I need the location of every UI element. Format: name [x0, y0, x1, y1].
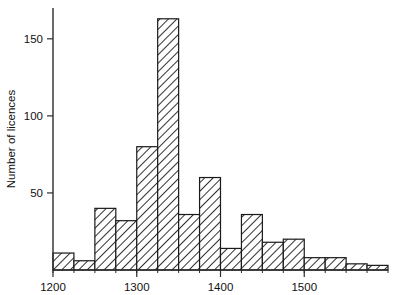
x-axis-tick-label: 1400 — [208, 281, 234, 293]
x-axis-tick-label: 1500 — [291, 281, 317, 293]
chart-svg: 501001501200130014001500Number of licenc… — [0, 0, 396, 295]
histogram-bar — [283, 239, 304, 270]
histogram-bar — [116, 221, 137, 270]
y-axis-title: Number of licences — [5, 90, 17, 189]
histogram-bar — [221, 248, 242, 270]
histogram-bar — [241, 215, 262, 270]
histogram-bar — [304, 258, 325, 270]
histogram-bar — [53, 253, 74, 270]
histogram-bar — [179, 215, 200, 270]
histogram-bar — [200, 178, 221, 270]
histogram-bar — [74, 261, 95, 270]
y-axis-tick-label: 100 — [24, 110, 43, 122]
histogram-bar — [95, 208, 116, 270]
histogram-bar — [346, 264, 367, 270]
y-axis-tick-label: 50 — [30, 187, 43, 199]
bars-group — [53, 19, 388, 270]
histogram-bar — [325, 258, 346, 270]
histogram-bar — [137, 147, 158, 270]
x-axis-tick-label: 1300 — [124, 281, 150, 293]
x-axis-tick-label: 1200 — [40, 281, 66, 293]
y-axis-tick-label: 150 — [24, 33, 43, 45]
histogram-chart: 501001501200130014001500Number of licenc… — [0, 0, 396, 295]
histogram-bar — [262, 242, 283, 270]
histogram-bar — [158, 19, 179, 270]
